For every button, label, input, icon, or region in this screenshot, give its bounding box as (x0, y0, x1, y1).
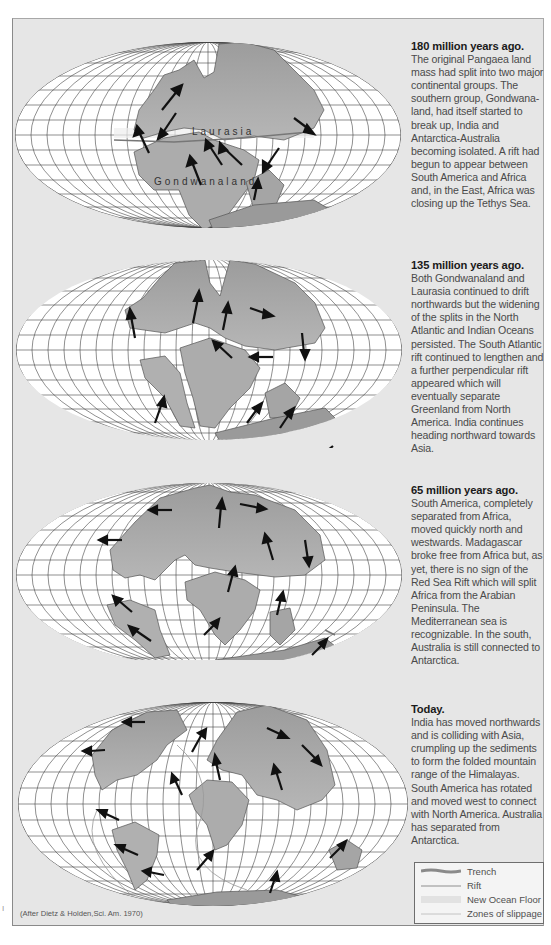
caption-65-million-years: 65 million years ago. South America, com… (411, 484, 545, 667)
legend-label: Rift (467, 879, 481, 892)
caption-body: South America, completely separated from… (411, 497, 543, 666)
caption-today: Today. India has moved northwards and is… (411, 703, 545, 847)
legend-item-zones-of-slippage: Zones of slippage (421, 907, 543, 920)
mollweide-map-65 (15, 480, 405, 660)
map-today (17, 700, 412, 908)
slippage-line-icon (421, 912, 461, 916)
legend-label: Trench (467, 865, 496, 878)
caption-title: 135 million years ago. (411, 259, 545, 272)
legend-item-trench: Trench (421, 865, 543, 878)
ocean-floor-swatch-icon (421, 896, 461, 903)
mollweide-map-today (17, 700, 412, 908)
map-135-million-years (15, 258, 405, 448)
map-180-million-years: Laurasia Gondwanaland (14, 40, 404, 230)
map-label-gondwanaland: Gondwanaland (154, 176, 257, 187)
legend-item-rift: Rift (421, 879, 543, 892)
trench-line-icon (421, 868, 461, 874)
mollweide-map-135 (15, 258, 405, 448)
legend-label: New Ocean Floor (467, 893, 541, 906)
caption-135-million-years: 135 million years ago. Both Gondwanaland… (411, 259, 545, 455)
map-65-million-years (15, 480, 405, 660)
mollweide-map-180: Laurasia Gondwanaland (14, 40, 404, 230)
caption-body: Both Gondwanaland and Laurasia continued… (411, 272, 543, 454)
caption-body: India has moved northwards and is collid… (411, 716, 542, 846)
legend-label: Zones of slippage (467, 907, 542, 920)
caption-title: 180 million years ago. (411, 40, 545, 53)
side-mark: I (2, 904, 4, 913)
rift-line-icon (421, 884, 461, 888)
source-credit: (After Dietz & Holden,Sci. Am. 1970) (20, 909, 143, 918)
map-legend: Trench Rift New Ocean Floor Zones of sli… (414, 862, 544, 924)
caption-title: Today. (411, 703, 545, 716)
caption-180-million-years: 180 million years ago. The original Pang… (411, 40, 545, 210)
legend-item-new-ocean-floor: New Ocean Floor (421, 893, 543, 906)
caption-title: 65 million years ago. (411, 484, 545, 497)
caption-body: The original Pangaea land mass had split… (411, 53, 543, 209)
map-label-laurasia: Laurasia (192, 126, 254, 137)
